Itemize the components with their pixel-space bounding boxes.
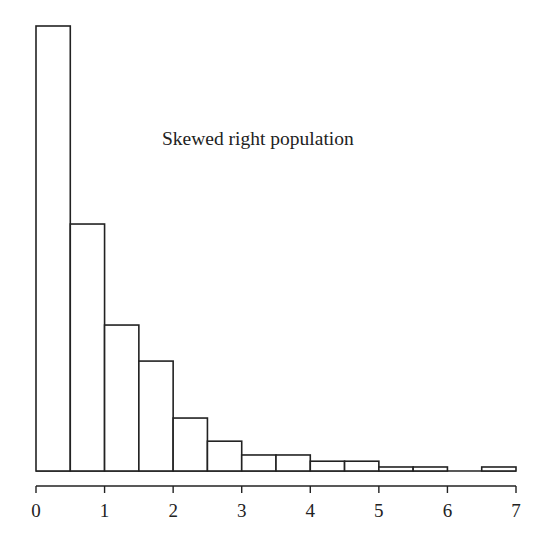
histogram-bar bbox=[379, 467, 413, 471]
histogram-bar bbox=[242, 455, 276, 471]
x-axis-tick-label: 7 bbox=[511, 500, 521, 522]
histogram-bar bbox=[276, 455, 310, 471]
histogram-bar bbox=[36, 26, 70, 471]
histogram-bars bbox=[36, 26, 516, 471]
histogram-bar bbox=[413, 467, 447, 471]
histogram-chart bbox=[0, 0, 545, 548]
x-axis-tick-label: 0 bbox=[31, 500, 41, 522]
chart-annotation-title: Skewed right population bbox=[162, 128, 354, 150]
x-axis-tick-label: 6 bbox=[443, 500, 453, 522]
histogram-bar bbox=[345, 461, 379, 471]
x-axis-tick-label: 5 bbox=[374, 500, 384, 522]
histogram-bar bbox=[70, 224, 104, 471]
histogram-bar bbox=[482, 467, 516, 471]
histogram-bar bbox=[207, 441, 241, 471]
x-axis-tick-label: 4 bbox=[306, 500, 316, 522]
x-axis-tick-label: 3 bbox=[237, 500, 247, 522]
histogram-bar bbox=[139, 361, 173, 471]
x-axis-tick-label: 2 bbox=[168, 500, 178, 522]
histogram-bar bbox=[105, 325, 139, 471]
x-axis-tick-label: 1 bbox=[100, 500, 110, 522]
x-axis bbox=[36, 486, 516, 493]
histogram-bar bbox=[310, 461, 344, 471]
histogram-bar bbox=[173, 418, 207, 471]
